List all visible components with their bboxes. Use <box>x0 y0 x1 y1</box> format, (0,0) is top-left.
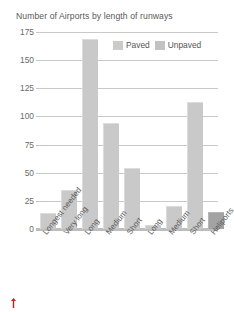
y-tick-25: 25 <box>2 196 34 206</box>
y-tick-150: 150 <box>2 55 34 65</box>
chart-legend: Paved Unpaved <box>113 40 201 50</box>
y-tick-175: 175 <box>2 27 34 37</box>
legend-label-paved: Paved <box>126 40 150 50</box>
y-tick-50: 50 <box>2 168 34 178</box>
x-axis-labels: Longest needed Very long Long Medium Sho… <box>0 231 222 291</box>
bar-short-unpaved[interactable] <box>187 102 203 229</box>
legend-swatch-paved-icon <box>113 41 123 50</box>
y-tick-75: 75 <box>2 140 34 150</box>
legend-swatch-unpaved-icon <box>155 41 165 50</box>
cursor-marker-icon <box>11 294 16 304</box>
plot-area <box>36 32 218 229</box>
bar-long-paved[interactable] <box>82 39 98 229</box>
legend-item-paved[interactable]: Paved <box>113 40 150 50</box>
legend-label-unpaved: Unpaved <box>168 40 202 50</box>
y-tick-125: 125 <box>2 83 34 93</box>
y-axis: 175 150 125 100 75 50 25 0 <box>0 32 34 229</box>
bar-group <box>36 32 218 229</box>
y-tick-100: 100 <box>2 111 34 121</box>
legend-item-unpaved[interactable]: Unpaved <box>155 40 202 50</box>
chart-title: Number of Airports by length of runways <box>16 11 173 21</box>
